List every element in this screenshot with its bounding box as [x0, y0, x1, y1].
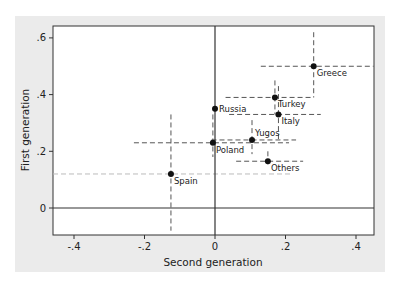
x-tick-label: .2	[281, 241, 291, 252]
y-tick-label: .4	[36, 89, 46, 100]
y-axis-title: First generation	[19, 89, 31, 172]
x-tick-label: -.2	[138, 241, 151, 252]
y-tick-label: 0	[40, 203, 46, 214]
point-label: Poland	[216, 145, 244, 155]
point-label: Spain	[174, 176, 198, 186]
data-point	[212, 106, 218, 112]
point-label: Greece	[317, 68, 347, 78]
point-label: Turkey	[277, 99, 306, 109]
point-label: Russia	[219, 104, 246, 114]
point-label: Yugos	[254, 128, 280, 138]
plot-area	[53, 26, 374, 235]
point-label: Others	[271, 163, 300, 173]
y-tick-label: .6	[36, 32, 46, 43]
scatter-chart: -.4-.20.2.4 0.2.4.6 GreeceTurkeyRussiaIt…	[0, 0, 395, 288]
x-tick-label: -.4	[67, 241, 80, 252]
x-axis-title: Second generation	[163, 256, 262, 268]
y-axis-ticks: 0.2.4.6	[36, 32, 53, 213]
x-tick-label: .4	[351, 241, 361, 252]
point-label: Italy	[281, 116, 299, 126]
x-axis-ticks: -.4-.20.2.4	[67, 235, 360, 252]
y-tick-label: .2	[36, 146, 46, 157]
x-tick-label: 0	[212, 241, 218, 252]
